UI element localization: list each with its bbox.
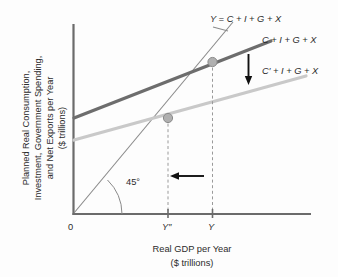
y-axis-title-line1: Planned Real Consumption, [21,71,31,185]
equilibrium-point-original [208,57,217,66]
y-axis-title-line4: ($ trillions) [57,107,67,149]
x-axis-units: ($ trillions) [171,258,214,268]
label-curve-original: C + I + G + X [262,35,317,45]
equilibrium-point-shifted [163,113,172,122]
xtick-label-y-double-prime: Y″ [162,222,172,232]
xtick-label-y: Y [208,222,215,232]
y-axis-title-line2: Investment, Government Spending, [33,56,43,201]
label-curve-shifted: C′ + I + G + X [262,66,319,76]
expenditure-equilibrium-chart: Y = C + I + G + X C + I + G + X C′ + I +… [0,0,338,277]
y-axis-title-line3: and Net Exports per Year [45,77,55,180]
label-reference-line: Y = C + I + G + X [210,14,282,24]
x-axis-title: Real GDP per Year [153,244,232,254]
angle-label: 45° [126,177,140,187]
origin-label: 0 [68,222,73,232]
